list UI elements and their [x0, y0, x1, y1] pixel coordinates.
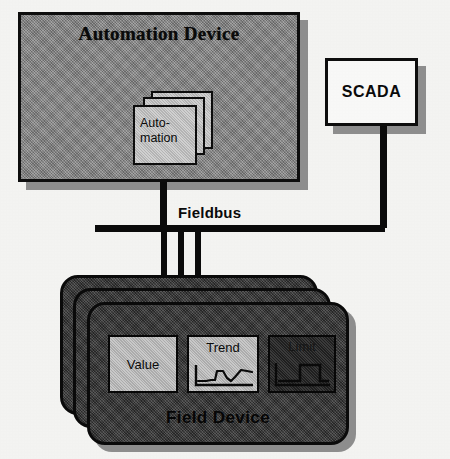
function-box-value-label: Value — [110, 357, 176, 372]
function-box-limit-label: Limit — [270, 339, 334, 354]
function-box-trend[interactable]: Trend — [187, 335, 259, 393]
scada-riser-wire — [380, 124, 387, 228]
step-function-icon — [274, 359, 332, 389]
fieldbus-drop-wire-3 — [195, 230, 201, 278]
automation-device-riser-wire — [160, 178, 167, 228]
automation-device-title: Automation Device — [21, 23, 297, 45]
field-device-card-front[interactable]: Value Trend Limit Field Device — [87, 302, 349, 445]
function-box-limit[interactable]: Limit — [268, 335, 336, 393]
scada-label: SCADA — [328, 61, 415, 123]
field-device-stack[interactable]: Value Trend Limit Field Device — [60, 275, 365, 445]
function-box-trend-label: Trend — [189, 340, 257, 355]
function-box-value[interactable]: Value — [108, 335, 178, 393]
fieldbus-label: Fieldbus — [178, 204, 241, 221]
scada-box[interactable]: SCADA — [325, 58, 418, 126]
fieldbus-trunk-line — [95, 225, 385, 232]
automation-device-box[interactable]: Automation Device Auto- mation — [18, 12, 300, 182]
automation-card-stack[interactable]: Auto- mation — [133, 91, 215, 167]
line-chart-icon — [193, 362, 255, 388]
automation-card-front[interactable]: Auto- mation — [133, 105, 197, 165]
diagram-canvas: Automation Device Auto- mation SCADA Fie… — [0, 0, 450, 459]
field-device-label: Field Device — [90, 408, 346, 428]
automation-card-label: Auto- mation — [140, 116, 194, 146]
